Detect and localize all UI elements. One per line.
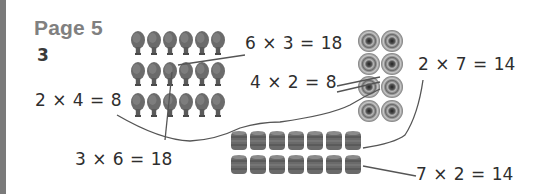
- illustration: [0, 0, 540, 194]
- target-array: [358, 30, 403, 122]
- racket-array: [131, 31, 225, 117]
- line-6x3: [178, 55, 245, 65]
- barrel-array: [231, 131, 361, 174]
- line-7x2: [363, 166, 416, 176]
